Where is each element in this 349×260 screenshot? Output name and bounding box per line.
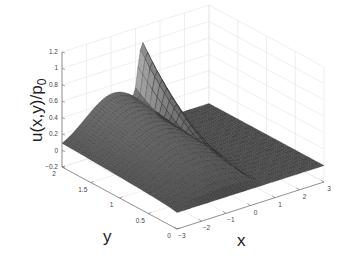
x-tick-label: 0 (254, 209, 258, 216)
y-tick-label: 1 (110, 201, 114, 208)
z-tick-label: 0.8 (49, 81, 58, 88)
z-tick-label: 0.4 (49, 114, 58, 121)
x-tick-label: 2 (303, 193, 307, 200)
z-tick-label: 0.2 (49, 130, 58, 137)
x-tick-label: −3 (178, 232, 186, 239)
surface-plot: −0.200.20.40.60.811.200.511.52−3−2−10123… (0, 0, 349, 260)
x-tick-label: 3 (327, 185, 331, 192)
x-tick-label: −2 (203, 224, 211, 231)
y-axis-label: y (103, 227, 112, 246)
z-axis-label: u(x,y)/p0 (27, 78, 49, 142)
z-axis-label-subscript: 0 (35, 78, 49, 85)
z-tick-label: 1 (54, 64, 58, 71)
z-tick-label: 0.6 (49, 97, 58, 104)
y-tick-label: 0 (167, 232, 171, 239)
y-tick-label: 0.5 (136, 217, 145, 224)
x-axis-label: x (237, 231, 246, 250)
y-tick-label: 2 (52, 170, 56, 177)
x-tick-label: 1 (278, 201, 282, 208)
z-tick-label: 0 (54, 147, 58, 154)
y-tick-label: 1.5 (78, 186, 87, 193)
z-tick-label: −0.2 (45, 163, 58, 170)
z-tick-label: 1.2 (49, 48, 58, 55)
x-tick-label: −1 (227, 216, 235, 223)
